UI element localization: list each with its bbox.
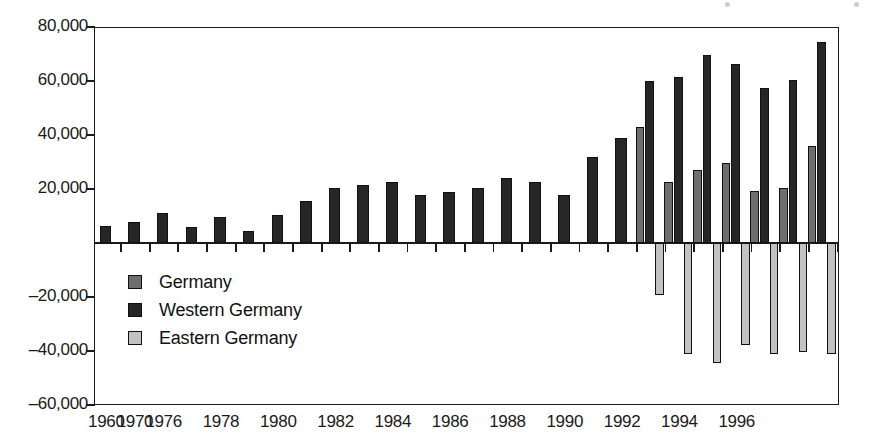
bar-germany [750, 191, 759, 243]
y-tick [86, 296, 95, 298]
bar-west [501, 178, 513, 243]
bar-east [713, 243, 722, 363]
bar-west [731, 64, 740, 243]
x-tick-label: 1986 [432, 412, 469, 432]
bar-east [655, 243, 664, 295]
bar-west [415, 195, 427, 243]
legend-label-western-germany: Western Germany [159, 300, 302, 321]
x-tick-label: 1976 [145, 412, 182, 432]
bar-west [674, 77, 683, 243]
y-tick [86, 26, 95, 28]
x-tick-label: 1978 [203, 412, 240, 432]
x-tick-label: 1994 [661, 412, 698, 432]
bar-west [558, 195, 570, 243]
bar-west [128, 222, 140, 243]
x-tick-label: 1984 [375, 412, 412, 432]
crop-artifact-left [725, 2, 730, 7]
y-tick-label: 40,000 [2, 124, 88, 144]
bar-west [100, 226, 112, 243]
y-tick [86, 188, 95, 190]
crop-artifact-right [854, 2, 859, 7]
bar-east [799, 243, 808, 352]
bar-west [645, 81, 654, 243]
bar-west [472, 188, 484, 243]
y-tick [86, 350, 95, 352]
bar-germany [664, 182, 673, 243]
bar-chart: 80,00060,00040,00020,000–20,000–40,000–6… [0, 0, 871, 448]
bar-west [272, 215, 284, 243]
legend-swatch-eastern-germany [128, 331, 142, 345]
bar-west [789, 80, 798, 243]
y-tick [86, 80, 95, 82]
bar-east [827, 243, 836, 354]
bar-germany [808, 146, 817, 243]
y-tick-label: –40,000 [2, 340, 88, 360]
legend-item-western-germany: Western Germany [128, 296, 302, 324]
legend-label-eastern-germany: Eastern Germany [159, 328, 297, 349]
bar-germany [636, 127, 645, 243]
bar-east [741, 243, 750, 345]
bar-east [770, 243, 779, 354]
bar-west [587, 157, 599, 243]
x-tick-label: 1992 [604, 412, 641, 432]
chart-legend: Germany Western Germany Eastern Germany [128, 268, 302, 352]
bar-west [817, 42, 826, 243]
y-tick [86, 404, 95, 406]
legend-swatch-western-germany [128, 303, 142, 317]
bar-west [214, 217, 226, 243]
bar-west [357, 185, 369, 243]
y-axis: 80,00060,00040,00020,000–20,000–40,000–6… [0, 0, 88, 448]
x-tick-label: 1988 [489, 412, 526, 432]
bar-west [329, 188, 341, 243]
legend-item-germany: Germany [128, 268, 302, 296]
y-tick-label: 60,000 [2, 70, 88, 90]
bar-germany [693, 170, 702, 243]
x-tick-label: 1980 [260, 412, 297, 432]
bar-west [529, 182, 541, 243]
bar-west [703, 55, 712, 243]
bar-west [243, 231, 255, 243]
legend-swatch-germany [128, 275, 142, 289]
y-tick-label: –60,000 [2, 394, 88, 414]
x-tick-label: 1996 [718, 412, 755, 432]
bar-west [615, 138, 627, 243]
legend-label-germany: Germany [159, 272, 232, 293]
bar-west [186, 227, 198, 243]
y-tick-label: –20,000 [2, 286, 88, 306]
bar-west [443, 192, 455, 243]
bar-west [386, 182, 398, 243]
y-tick-label: 80,000 [2, 16, 88, 36]
x-tick-label: 1990 [546, 412, 583, 432]
bar-east [684, 243, 693, 354]
bar-west [760, 88, 769, 243]
legend-item-eastern-germany: Eastern Germany [128, 324, 302, 352]
y-tick-label: 20,000 [2, 178, 88, 198]
bar-west [300, 201, 312, 243]
bar-west [157, 213, 169, 243]
x-tick-label: 1982 [317, 412, 354, 432]
bar-germany [722, 163, 731, 243]
y-tick [86, 134, 95, 136]
bar-germany [779, 188, 788, 243]
